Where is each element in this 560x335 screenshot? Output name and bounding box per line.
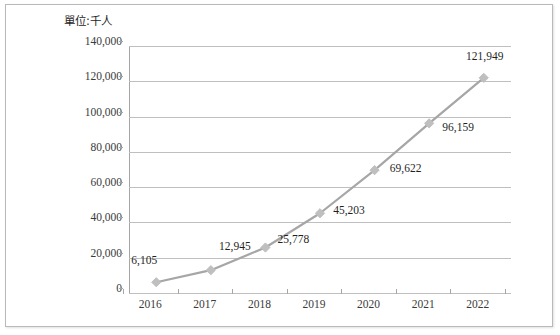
data-point-label: 6,105: [131, 254, 157, 266]
x-axis-tick-label: 2016: [139, 298, 162, 310]
x-axis-tick: [341, 289, 342, 294]
data-point-label: 25,778: [278, 233, 310, 245]
x-axis-tick: [505, 289, 506, 294]
x-axis-tick: [287, 289, 288, 294]
x-axis-tick-label: 2017: [193, 298, 216, 310]
data-point-marker: [206, 266, 215, 275]
x-axis-tick: [396, 289, 397, 294]
chart-figure: 單位:千人 020,00040,00060,00080,000100,00012…: [5, 4, 553, 327]
y-axis-tick: [119, 112, 123, 113]
x-axis-tick-label: 2020: [357, 298, 380, 310]
data-point-label: 45,203: [333, 204, 365, 216]
x-axis-tick: [450, 289, 451, 294]
y-axis-tick: [119, 76, 123, 77]
data-point-marker: [152, 278, 161, 287]
y-axis-tick: [119, 253, 123, 254]
y-axis-tick: [119, 147, 123, 148]
x-axis-tick: [178, 289, 179, 294]
y-axis-tick: [119, 41, 123, 42]
y-axis-tick: [119, 182, 123, 183]
x-axis-tick: [123, 289, 124, 294]
x-axis-tick-label: 2021: [412, 298, 435, 310]
data-point-label: 96,159: [442, 121, 474, 133]
x-axis-tick: [232, 289, 233, 294]
y-axis-tick: [119, 217, 123, 218]
x-axis-tick-label: 2022: [466, 298, 489, 310]
data-point-label: 121,949: [466, 50, 503, 62]
data-point-label: 69,622: [390, 162, 422, 174]
data-point-label: 12,945: [219, 240, 251, 252]
x-axis-tick-label: 2018: [248, 298, 271, 310]
series-line: [156, 78, 483, 282]
x-axis-tick-label: 2019: [303, 298, 326, 310]
